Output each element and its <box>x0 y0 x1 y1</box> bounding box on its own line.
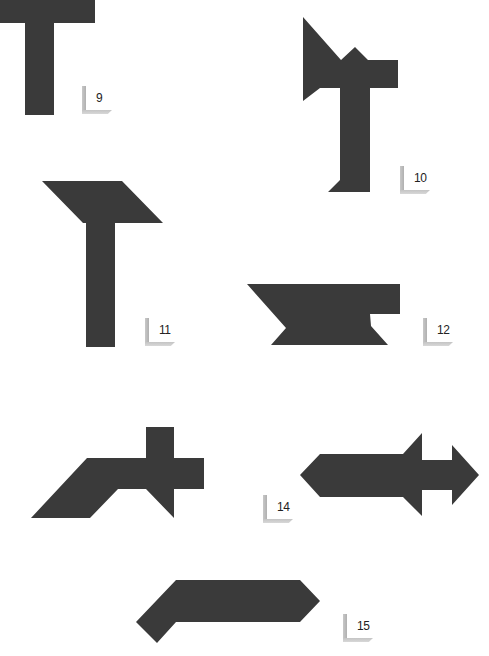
label-bracket-icon <box>82 86 86 114</box>
puzzle-number: 15 <box>357 619 369 633</box>
tangram-figure <box>0 0 489 656</box>
puzzle-label-14: 14 <box>263 495 303 525</box>
label-bracket-icon <box>400 166 404 194</box>
label-bracket-base <box>263 519 293 523</box>
tangram-shape-15 <box>136 580 320 643</box>
label-bracket-base <box>145 342 175 346</box>
puzzle-number: 14 <box>277 500 289 514</box>
puzzle-number: 11 <box>159 323 170 337</box>
tangram-shape-9 <box>0 0 95 115</box>
puzzle-number: 9 <box>96 91 102 105</box>
puzzle-number: 10 <box>414 171 426 185</box>
tangram-shape-14 <box>300 433 479 516</box>
puzzle-label-9: 9 <box>82 86 122 116</box>
tangram-shape-10 <box>303 17 398 192</box>
puzzle-label-12: 12 <box>423 318 463 348</box>
tangram-shape-13 <box>31 427 204 518</box>
label-bracket-base <box>343 638 373 642</box>
label-bracket-icon <box>145 318 149 346</box>
puzzle-number: 12 <box>437 323 449 337</box>
label-bracket-base <box>82 110 112 114</box>
puzzle-label-10: 10 <box>400 166 440 196</box>
label-bracket-icon <box>263 495 267 523</box>
puzzle-label-11: 11 <box>145 318 185 348</box>
puzzle-label-13: 13 <box>0 482 10 512</box>
label-bracket-icon <box>423 318 427 346</box>
puzzle-label-15: 15 <box>343 614 383 644</box>
label-bracket-icon <box>343 614 347 642</box>
tangram-shape-12 <box>247 284 400 345</box>
label-bracket-base <box>423 342 453 346</box>
label-bracket-base <box>400 190 430 194</box>
